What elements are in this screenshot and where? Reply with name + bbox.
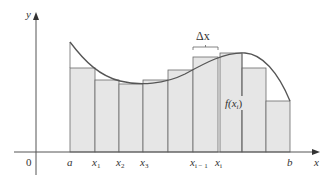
- origin-label: 0: [26, 156, 32, 168]
- x-axis-label: x: [313, 156, 319, 168]
- tick-label: x1: [91, 156, 101, 170]
- tick-labels: ax1x2x3xi − 1xib: [67, 156, 293, 170]
- tick-label: x3: [139, 156, 149, 170]
- tick-label: a: [67, 156, 73, 168]
- tick-label: x2: [115, 156, 125, 170]
- rectangle-3: [119, 84, 143, 152]
- tick-label: xi − 1: [189, 156, 208, 170]
- rectangle-2: [95, 80, 119, 152]
- rectangle-6: [193, 57, 218, 152]
- delta-x-label: Δx: [196, 29, 210, 43]
- height-label: f(xi): [223, 96, 253, 111]
- y-axis-arrow-icon: [33, 12, 39, 20]
- approximating-rectangles: [70, 42, 290, 152]
- rectangle-5: [168, 70, 193, 152]
- y-axis-label: y: [25, 8, 31, 20]
- tick-label: xi: [214, 156, 222, 170]
- rectangle-1: [70, 68, 95, 152]
- height-label-text: f(x: [225, 97, 237, 110]
- rectangle-4: [143, 80, 168, 152]
- tick-label: b: [287, 156, 293, 168]
- riemann-sum-figure: Δx y x 0 f(xi) ax1x2x3xi − 1xib: [0, 0, 336, 184]
- svg-text:f(xi): f(xi): [225, 97, 243, 111]
- x-axis-arrow-icon: [312, 149, 320, 155]
- height-label-close: ): [239, 97, 243, 110]
- rectangle-9: [266, 101, 290, 152]
- delta-x-bracket: [193, 45, 218, 50]
